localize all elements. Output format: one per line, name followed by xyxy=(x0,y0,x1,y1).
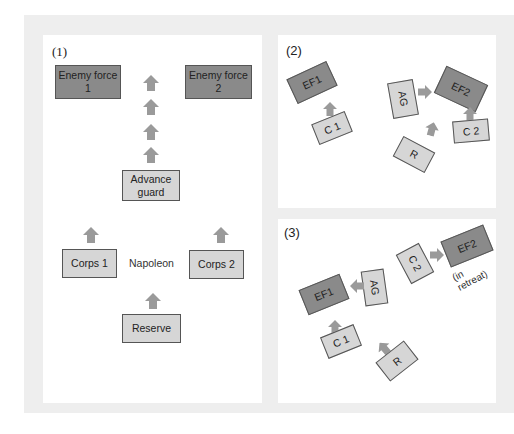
enemy-force-1: EF1 xyxy=(299,274,350,316)
napoleon-label: Napoleon xyxy=(129,257,174,269)
reserve: Reserve xyxy=(122,314,181,343)
arrow-right-icon xyxy=(430,248,444,262)
panel-1: (1) Enemy force 1 Enemy force 2 Advance … xyxy=(43,35,262,403)
enemy-force-2: Enemy force 2 xyxy=(185,65,252,99)
corps-2: C 2 xyxy=(396,243,434,284)
arrow-up-icon xyxy=(143,147,159,163)
corps-1: Corps 1 xyxy=(62,249,117,278)
arrow-right-icon xyxy=(418,85,432,99)
arrow-up-icon xyxy=(213,227,229,243)
arrow-left-icon xyxy=(350,279,364,293)
panel-2: (2) EF1 C 1 AG EF2 C 2 R xyxy=(278,35,496,208)
advance-guard: Advance guard xyxy=(122,170,180,201)
arrow-up-icon xyxy=(145,293,161,309)
arrow-up-icon xyxy=(143,99,159,115)
arrow-up-icon xyxy=(143,124,159,140)
panel-3-label: (3) xyxy=(284,225,300,240)
enemy-force-1: EF1 xyxy=(286,61,337,104)
panel-3: (3) C 2 EF2 (in retreat) AG EF1 C 1 R xyxy=(278,219,496,403)
corps-2: Corps 2 xyxy=(189,250,244,279)
advance-guard: AG xyxy=(387,79,419,119)
enemy-force-1: Enemy force 1 xyxy=(55,65,121,99)
arrow-up-icon xyxy=(423,120,440,137)
arrow-up-icon xyxy=(83,227,99,243)
arrow-up-icon xyxy=(143,75,159,91)
advance-guard: AG xyxy=(361,269,389,307)
corps-2: C 2 xyxy=(452,118,490,143)
panel-1-label: (1) xyxy=(52,44,67,60)
corps-1: C 1 xyxy=(320,324,362,359)
panel-2-label: (2) xyxy=(286,43,302,58)
reserve: R xyxy=(393,136,436,173)
enemy-force-2: EF2 xyxy=(434,66,488,113)
corps-1: C 1 xyxy=(311,111,353,145)
